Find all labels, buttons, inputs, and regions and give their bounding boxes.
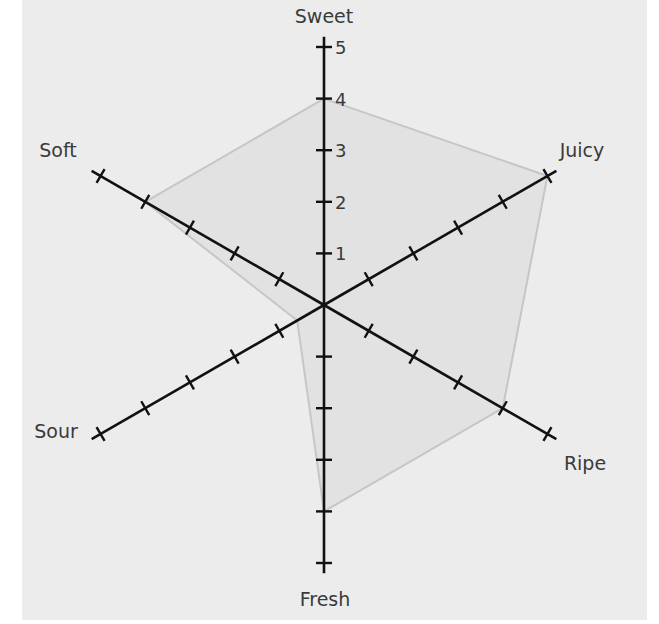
tick-mark (97, 427, 105, 441)
tick-label: 3 (335, 140, 346, 161)
axis-label-fresh: Fresh (300, 588, 351, 610)
radar-chart: 12345 SweetJuicyRipeFreshSourSoft (0, 0, 659, 624)
axis-label-juicy: Juicy (559, 139, 605, 161)
axis-label-ripe: Ripe (564, 452, 606, 474)
tick-mark (543, 427, 551, 441)
tick-mark (275, 324, 283, 338)
tick-label: 4 (335, 89, 346, 110)
tick-label: 1 (335, 243, 346, 264)
axis-label-sweet: Sweet (295, 5, 353, 27)
tick-mark (141, 401, 149, 415)
tick-mark (186, 375, 194, 389)
tick-label: 5 (335, 37, 346, 58)
tick-mark (231, 350, 239, 364)
axis-label-sour: Sour (34, 420, 78, 442)
tick-mark (97, 169, 105, 183)
axis-sour (92, 305, 324, 439)
axis-label-soft: Soft (39, 139, 77, 161)
tick-label: 2 (335, 192, 346, 213)
